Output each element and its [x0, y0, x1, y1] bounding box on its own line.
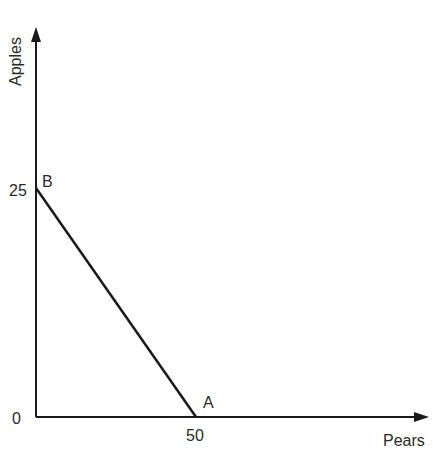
x-tick-50: 50	[186, 427, 204, 444]
y-axis-label: Apples	[7, 37, 24, 86]
y-tick-25: 25	[9, 182, 27, 199]
ppf-line	[36, 188, 196, 417]
x-axis-label: Pears	[383, 432, 425, 449]
point-a-label: A	[203, 394, 214, 411]
y-axis-arrow-icon	[31, 27, 41, 42]
x-axis	[36, 412, 429, 422]
y-axis	[31, 27, 41, 417]
ppf-chart: Apples Pears 0 25 50 B A	[0, 0, 438, 452]
x-axis-arrow-icon	[414, 412, 429, 422]
point-b-label: B	[42, 173, 53, 190]
origin-label: 0	[12, 410, 21, 427]
